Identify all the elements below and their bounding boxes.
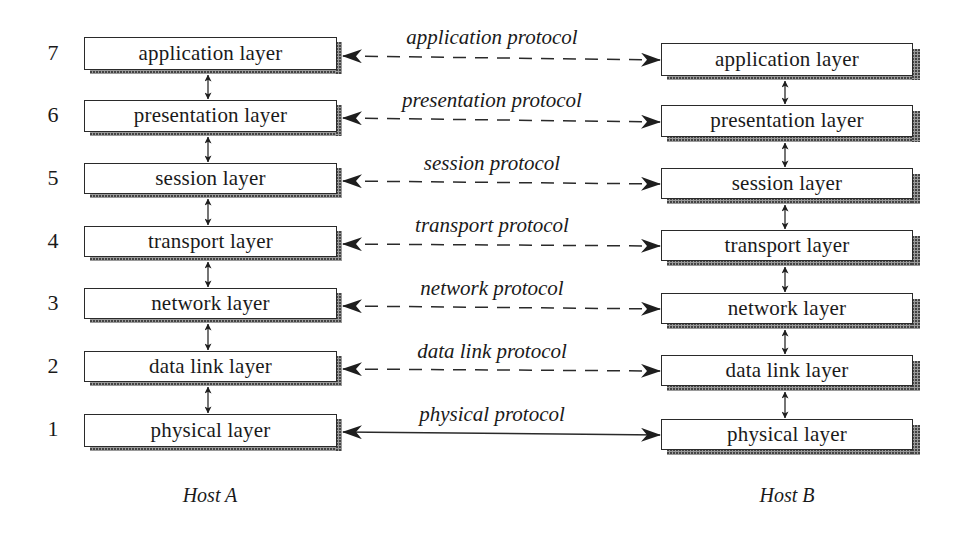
box-shadow	[912, 49, 920, 80]
session-protocol-arrow	[343, 181, 660, 184]
layer-number-6: 6	[41, 104, 65, 126]
host-b-session-layer: session layer	[661, 168, 913, 199]
host-b-application-layer: application layer	[661, 43, 913, 76]
host-a-session-layer: session layer	[84, 163, 337, 194]
layer-number-5: 5	[41, 167, 65, 189]
layer-number-1: 1	[41, 418, 65, 440]
network-protocol-label: network protocol	[342, 277, 642, 299]
host-b-data-link-layer: data link layer	[661, 355, 913, 386]
box-shadow	[912, 361, 920, 391]
host-a-presentation-layer: presentation layer	[84, 100, 337, 132]
box-shadow	[912, 174, 920, 204]
network-protocol-arrow	[343, 306, 660, 309]
host-a-application-layer: application layer	[84, 37, 337, 70]
layer-number-4: 4	[41, 230, 65, 252]
host-a-data-link-layer: data link layer	[84, 351, 337, 382]
host-a-label: Host A	[150, 484, 270, 507]
osi-model-diagram: 7 6 5 4 3 2 1 application layer presenta…	[0, 0, 956, 534]
data-link-protocol-arrow	[343, 369, 660, 371]
application-protocol-label: application protocol	[342, 26, 642, 48]
host-a-transport-layer: transport layer	[84, 226, 337, 257]
layer-number-2: 2	[41, 355, 65, 377]
transport-protocol-arrow	[343, 244, 660, 246]
box-shadow	[912, 236, 920, 266]
transport-protocol-label: transport protocol	[342, 214, 642, 236]
host-b-transport-layer: transport layer	[661, 230, 913, 261]
layer-number-7: 7	[41, 42, 65, 64]
host-a-network-layer: network layer	[84, 288, 337, 319]
application-protocol-arrow	[343, 56, 660, 60]
host-b-physical-layer: physical layer	[661, 419, 913, 450]
host-b-network-layer: network layer	[661, 293, 913, 324]
box-shadow	[912, 425, 920, 455]
layer-number-3: 3	[41, 292, 65, 314]
protocol-arrows	[343, 56, 660, 435]
session-protocol-label: session protocol	[342, 152, 642, 174]
data-link-protocol-label: data link protocol	[342, 340, 642, 362]
box-shadow	[912, 299, 920, 329]
host-a-physical-layer: physical layer	[84, 414, 337, 447]
presentation-protocol-label: presentation protocol	[342, 89, 642, 111]
box-shadow	[912, 111, 920, 142]
host-b-presentation-layer: presentation layer	[661, 105, 913, 137]
presentation-protocol-arrow	[343, 118, 660, 122]
physical-protocol-label: physical protocol	[342, 403, 642, 425]
physical-protocol-arrow	[343, 432, 660, 435]
host-b-label: Host B	[727, 484, 847, 507]
